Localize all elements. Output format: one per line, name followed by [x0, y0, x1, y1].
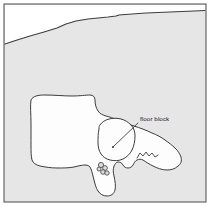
excavation-plan-svg: floor block [0, 0, 210, 206]
leader-line-endpoint [112, 146, 114, 148]
floor-block-label: floor block [140, 115, 170, 122]
stone-marker [105, 171, 109, 175]
floor-block-outline [98, 118, 135, 160]
stone-marker [97, 167, 101, 171]
figure-root: floor block [0, 0, 210, 206]
